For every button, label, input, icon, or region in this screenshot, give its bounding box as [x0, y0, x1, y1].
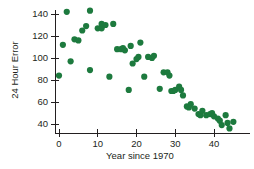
- data-point: [151, 53, 157, 59]
- data-point: [226, 125, 232, 131]
- data-point: [230, 119, 236, 125]
- data-point: [83, 23, 89, 29]
- data-point: [141, 74, 147, 80]
- data-point: [126, 87, 132, 93]
- x-tick-label: 40: [209, 138, 220, 149]
- x-axis-tick-labels: 010203040: [56, 138, 219, 149]
- data-point: [122, 47, 128, 53]
- x-tick-label: 20: [131, 138, 142, 149]
- x-tick-label: 30: [170, 138, 181, 149]
- y-tick-label: 80: [37, 74, 48, 85]
- data-point: [56, 73, 62, 79]
- scatter-plot-figure: 406080100120140 010203040 24 Hour Error …: [0, 0, 254, 169]
- data-point: [64, 9, 70, 15]
- data-point-series: [56, 8, 237, 132]
- data-point: [75, 37, 81, 43]
- y-tick-label: 40: [37, 118, 48, 129]
- data-point: [135, 54, 141, 60]
- data-point: [178, 87, 184, 93]
- plot-canvas: 406080100120140 010203040 24 Hour Error …: [0, 0, 254, 169]
- y-tick-label: 100: [32, 52, 48, 63]
- data-point: [60, 42, 66, 48]
- x-axis-title: Year since 1970: [106, 150, 174, 161]
- y-tick-label: 120: [32, 30, 48, 41]
- y-axis-tick-labels: 406080100120140: [32, 8, 48, 129]
- data-point: [102, 22, 108, 28]
- data-point: [223, 112, 229, 118]
- data-point: [224, 120, 230, 126]
- x-tick-label: 10: [92, 138, 103, 149]
- y-tick-label: 60: [37, 96, 48, 107]
- x-tick-label: 0: [56, 138, 61, 149]
- data-point: [128, 43, 134, 49]
- y-axis-title: 24 Hour Error: [9, 41, 20, 99]
- data-point: [219, 122, 225, 128]
- data-point: [180, 92, 186, 98]
- y-tick-label: 140: [32, 8, 48, 19]
- data-point: [87, 67, 93, 73]
- data-point: [106, 74, 112, 80]
- data-point: [166, 73, 172, 79]
- data-point: [137, 40, 143, 46]
- data-point: [157, 86, 163, 92]
- data-point: [68, 58, 74, 64]
- data-point: [192, 106, 198, 112]
- data-point: [87, 8, 93, 14]
- data-point: [110, 21, 116, 27]
